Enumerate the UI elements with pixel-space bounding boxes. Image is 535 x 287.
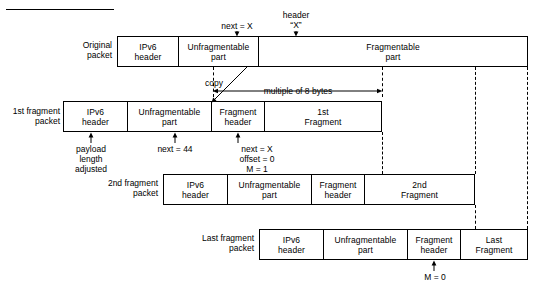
cell-text-line1: Last	[486, 235, 502, 245]
annotation-next-44: next = 44	[140, 144, 210, 154]
annotation-fragment-offset: offset = 0	[222, 154, 292, 164]
last-fragment-unfragmentable-part-cell: Unfragmentable part	[324, 229, 408, 260]
cell-text-line2: part	[385, 52, 400, 62]
annotation-header-x-line2: “X”	[261, 20, 331, 30]
last-fragment-ipv6-header-cell: IPv6 header	[259, 229, 324, 260]
row-label-last-fragment-line1: Last fragment	[186, 233, 254, 243]
second-fragment-ipv6-header-cell: IPv6 header	[163, 174, 228, 205]
cell-text-line2: Fragment	[304, 117, 341, 127]
dashed-guide-fragment-start	[213, 67, 214, 97]
row-label-original-line1: Original	[44, 40, 112, 50]
second-fragment-fragment-header-cell: Fragment header	[312, 174, 365, 205]
cell-text-line1: Fragment	[319, 180, 356, 190]
last-fragment-payload-cell: Last Fragment	[461, 229, 528, 260]
cell-text-line2: header	[82, 117, 109, 127]
dashed-guide-second-fragment-end	[475, 67, 476, 174]
dashed-guide-second-fragment-end-lower	[475, 205, 476, 229]
row-label-original-line2: packet	[44, 50, 112, 60]
cell-text-line1: Unfragmentable	[335, 235, 397, 245]
cell-text-line2: header	[324, 190, 351, 200]
row-label-first-fragment-line2: packet	[0, 116, 60, 126]
annotation-payload-length-line3: adjusted	[58, 164, 124, 174]
cell-text-line2: part	[211, 52, 226, 62]
cell-text-line1: Unfragmentable	[188, 42, 250, 52]
row-label-first-fragment-line1: 1st fragment	[0, 106, 60, 116]
cell-text-line1: IPv6	[187, 180, 204, 190]
cell-text-line1: Fragment	[415, 235, 452, 245]
row-label-last-fragment-line2: packet	[186, 243, 254, 253]
cell-text-line2: header	[182, 190, 209, 200]
dashed-guide-first-fragment-end-upper	[382, 67, 383, 97]
cell-text-line1: IPv6	[87, 107, 104, 117]
cell-text-line2: Fragment	[475, 245, 512, 255]
row-label-second-fragment-line1: 2nd fragment	[90, 178, 158, 188]
dashed-guide-packet-right-edge	[527, 67, 528, 229]
cell-text-line2: part	[162, 117, 177, 127]
top-rule	[6, 9, 114, 10]
annotation-header-x-line1: header	[261, 10, 331, 20]
cell-text-line2: header	[224, 117, 251, 127]
cell-text-line1: 2nd	[412, 180, 426, 190]
cell-text-line1: Fragment	[219, 107, 256, 117]
first-fragment-unfragmentable-part-cell: Unfragmentable part	[128, 101, 212, 132]
dashed-guide-first-fragment-end-lower	[382, 132, 383, 174]
cell-text-line1: 1st	[317, 107, 329, 117]
cell-text-line1: IPv6	[139, 42, 156, 52]
second-fragment-unfragmentable-part-cell: Unfragmentable part	[228, 174, 312, 205]
cell-text-line1: Unfragmentable	[139, 107, 201, 117]
original-fragmentable-part-cell: Fragmentable part	[259, 36, 528, 67]
cell-text-line2: header	[134, 52, 161, 62]
annotation-m-zero: M = 0	[404, 272, 466, 282]
cell-text-line2: part	[262, 190, 277, 200]
first-fragment-payload-cell: 1st Fragment	[265, 101, 382, 132]
first-fragment-ipv6-header-cell: IPv6 header	[63, 101, 128, 132]
ipv6-fragmentation-diagram: next = X header “X” Original packet IPv6…	[0, 0, 535, 287]
second-fragment-payload-cell: 2nd Fragment	[365, 174, 475, 205]
cell-text-line2: header	[420, 245, 447, 255]
cell-text-line1: IPv6	[283, 235, 300, 245]
row-label-second-fragment-line2: packet	[90, 188, 158, 198]
annotation-payload-length-line2: length	[58, 154, 124, 164]
annotation-fragment-m-flag: M = 1	[222, 164, 292, 174]
annotation-payload-length-line1: payload	[58, 144, 124, 154]
cell-text-line1: Unfragmentable	[239, 180, 301, 190]
cell-text-line2: part	[358, 245, 373, 255]
annotation-fragment-next-x: next = X	[222, 144, 292, 154]
cell-text-line2: header	[278, 245, 305, 255]
first-fragment-fragment-header-cell: Fragment header	[212, 101, 265, 132]
cell-text-line1: Fragmentable	[366, 42, 420, 52]
original-unfragmentable-part-cell: Unfragmentable part	[179, 36, 259, 67]
original-ipv6-header-cell: IPv6 header	[117, 36, 179, 67]
annotation-copy: copy	[194, 78, 234, 88]
annotation-multiple-of-8-bytes: multiple of 8 bytes	[237, 86, 359, 96]
last-fragment-fragment-header-cell: Fragment header	[408, 229, 461, 260]
cell-text-line2: Fragment	[401, 190, 438, 200]
